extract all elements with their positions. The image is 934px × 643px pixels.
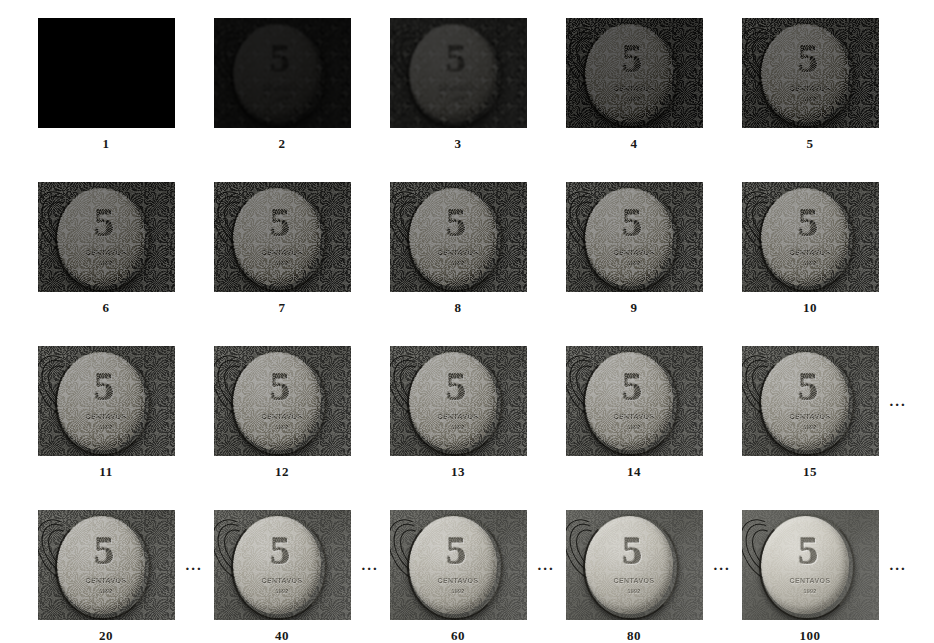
reconstructed-image-frame: 5CENTAVOS1992 [566,346,703,456]
coin-year: 1992 [246,95,317,103]
coin-legend-text: CENTAVOS [246,412,317,423]
frame-iteration-label: 6 [103,301,110,314]
coin-legend: CENTAVOS1992 [422,84,493,103]
sequence-frame-cell: 5CENTAVOS199260 [388,510,528,642]
sequence-frame-cell: 5CENTAVOS199211 [36,346,176,478]
coin-year: 1992 [598,95,669,103]
coin-denomination: 5 [609,197,656,248]
frame-iteration-label: 10 [803,301,817,314]
coin-denomination: 5 [609,525,656,576]
reconstructed-image-frame: 5CENTAVOS1992 [390,182,527,292]
coin-legend: CENTAVOS1992 [598,84,669,103]
frame-iteration-label: 80 [627,629,641,642]
sequence-frame-cell: 5CENTAVOS19928 [388,182,528,314]
coin-denomination: 5 [433,33,480,84]
sequence-frame-cell: 5CENTAVOS199240 [212,510,352,642]
sequence-frame-cell: 5CENTAVOS199220 [36,510,176,642]
coin-legend: CENTAVOS1992 [598,248,669,267]
coin-scene: 5CENTAVOS1992 [742,346,879,456]
coin-legend-text: CENTAVOS [774,84,845,95]
coin-denomination: 5 [433,361,480,412]
frame-iteration-label: 14 [627,465,641,478]
coin-legend-text: CENTAVOS [774,576,845,587]
coin-legend: CENTAVOS1992 [70,576,141,595]
coin-legend-text: CENTAVOS [70,84,141,95]
coin-legend: CENTAVOS1992 [70,248,141,267]
coin-year: 1992 [598,587,669,595]
coin-legend: CENTAVOS1992 [598,412,669,431]
coin-legend-text: CENTAVOS [70,248,141,259]
coin-scene: 5CENTAVOS1992 [214,510,351,620]
reconstructed-image-frame: 5CENTAVOS1992 [742,182,879,292]
reconstructed-image-frame: 5CENTAVOS1992 [742,18,879,128]
coin-legend: CENTAVOS1992 [246,248,317,267]
coin-denomination: 5 [257,33,304,84]
reconstructed-image-frame: 5CENTAVOS1992 [38,346,175,456]
coin-scene: 5CENTAVOS1992 [214,346,351,456]
coin-legend-text: CENTAVOS [246,576,317,587]
coin-legend: CENTAVOS1992 [774,576,845,595]
coin-legend-text: CENTAVOS [774,248,845,259]
coin-legend-text: CENTAVOS [598,412,669,423]
skipped-frames-ellipsis: ... [704,510,740,620]
grid-row: 5CENTAVOS19921...5CENTAVOS19922...5CENTA… [0,18,934,150]
coin-legend: CENTAVOS1992 [422,412,493,431]
coin-legend-text: CENTAVOS [422,248,493,259]
coin-denomination: 5 [81,197,128,248]
coin-scene: 5CENTAVOS1992 [390,346,527,456]
coin-legend-text: CENTAVOS [246,84,317,95]
coin-denomination: 5 [785,525,832,576]
skipped-frames-ellipsis: ... [880,346,916,456]
coin-legend: CENTAVOS1992 [246,576,317,595]
sequence-frame-cell: 5CENTAVOS199215 [740,346,880,478]
grid-row: 5CENTAVOS199211...5CENTAVOS199212...5CEN… [0,346,934,478]
coin-year: 1992 [70,95,141,103]
coin-year: 1992 [774,423,845,431]
coin-scene: 5CENTAVOS1992 [214,182,351,292]
coin-legend: CENTAVOS1992 [70,84,141,103]
frame-iteration-label: 9 [631,301,638,314]
coin-scene: 5CENTAVOS1992 [566,346,703,456]
reconstructed-image-frame: 5CENTAVOS1992 [566,510,703,620]
coin-denomination: 5 [609,33,656,84]
coin-year: 1992 [774,95,845,103]
sequence-frame-cell: 5CENTAVOS19926 [36,182,176,314]
skipped-frames-ellipsis: ... [352,510,388,620]
coin-legend-text: CENTAVOS [70,576,141,587]
coin-denomination: 5 [81,361,128,412]
coin-legend: CENTAVOS1992 [246,412,317,431]
skipped-frames-ellipsis: ... [528,510,564,620]
coin-scene: 5CENTAVOS1992 [38,18,175,128]
coin-legend-text: CENTAVOS [422,412,493,423]
coin-legend-text: CENTAVOS [598,248,669,259]
sequence-frame-cell: 5CENTAVOS19921 [36,18,176,150]
coin-denomination: 5 [785,33,832,84]
reconstructed-image-frame: 5CENTAVOS1992 [214,182,351,292]
sequence-frame-cell: 5CENTAVOS19925 [740,18,880,150]
coin-legend: CENTAVOS1992 [246,84,317,103]
coin-denomination: 5 [257,197,304,248]
coin-year: 1992 [70,259,141,267]
coin-year: 1992 [422,259,493,267]
coin-legend: CENTAVOS1992 [774,248,845,267]
coin-scene: 5CENTAVOS1992 [742,18,879,128]
sequence-frame-cell: 5CENTAVOS199213 [388,346,528,478]
frame-iteration-label: 11 [99,465,112,478]
grid-row: 5CENTAVOS199220...5CENTAVOS199240...5CEN… [0,510,934,642]
reconstructed-image-frame: 5CENTAVOS1992 [742,346,879,456]
coin-year: 1992 [422,95,493,103]
coin-legend-text: CENTAVOS [598,84,669,95]
coin-year: 1992 [246,587,317,595]
coin-scene: 5CENTAVOS1992 [38,510,175,620]
reconstructed-image-frame: 5CENTAVOS1992 [214,18,351,128]
coin-scene: 5CENTAVOS1992 [38,346,175,456]
reconstructed-image-frame: 5CENTAVOS1992 [38,182,175,292]
sequence-frame-cell: 5CENTAVOS199212 [212,346,352,478]
coin-scene: 5CENTAVOS1992 [566,18,703,128]
coin-year: 1992 [422,423,493,431]
frame-iteration-label: 8 [455,301,462,314]
reconstructed-image-frame: 5CENTAVOS1992 [390,510,527,620]
reconstructed-image-frame: 5CENTAVOS1992 [566,182,703,292]
coin-legend: CENTAVOS1992 [422,248,493,267]
